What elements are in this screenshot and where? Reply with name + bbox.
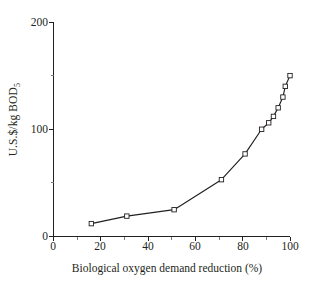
series-markers-cost bbox=[89, 73, 292, 225]
series-line-cost bbox=[91, 76, 290, 224]
axes-group bbox=[54, 22, 291, 237]
x-axis-ticks bbox=[54, 237, 291, 242]
y-axis-ticks bbox=[49, 22, 54, 237]
chart-figure: U.S.$/kg BOD5 Biological oxygen demand r… bbox=[0, 0, 312, 282]
axis-spines bbox=[54, 22, 291, 237]
data-series-group bbox=[89, 73, 292, 225]
plot-canvas bbox=[0, 0, 312, 282]
